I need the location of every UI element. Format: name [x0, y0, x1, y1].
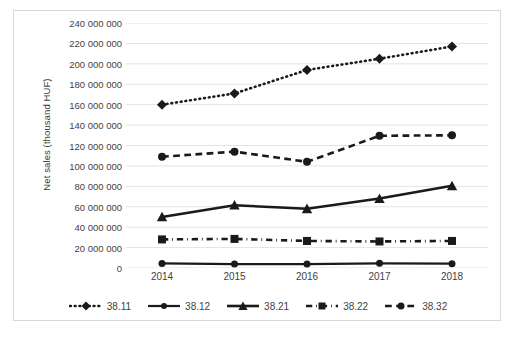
- y-axis-tick-label: 200 000 000: [22, 58, 122, 69]
- legend-swatch-square-icon: [305, 299, 339, 313]
- data-point-marker: [231, 261, 238, 268]
- y-axis-tick-label: 80 000 000: [22, 181, 122, 192]
- y-axis-tick-label: 60 000 000: [22, 201, 122, 212]
- data-point-marker: [376, 237, 384, 245]
- legend-label: 38.12: [185, 301, 210, 312]
- x-axis-tick-labels: 20142015201620172018: [126, 271, 488, 289]
- data-point-marker: [229, 88, 239, 98]
- x-axis-tick-label: 2018: [422, 271, 482, 282]
- data-point-marker: [304, 261, 311, 268]
- series-38-11: [157, 41, 457, 109]
- y-axis-tick-label: 220 000 000: [22, 38, 122, 49]
- y-axis-tick-label: 140 000 000: [22, 120, 122, 131]
- legend-swatch-diamond-icon: [69, 299, 103, 313]
- legend-swatch-triangle-icon: [226, 299, 260, 313]
- data-point-marker: [448, 237, 456, 245]
- y-axis-tick-label: 240 000 000: [22, 18, 122, 29]
- data-point-marker: [161, 303, 167, 309]
- y-axis-tick-labels: 240 000 000220 000 000200 000 000180 000…: [16, 23, 122, 268]
- data-point-marker: [231, 148, 239, 156]
- chart-plot-svg: [126, 23, 488, 268]
- y-axis-tick-label: 0: [22, 263, 122, 274]
- data-point-marker: [157, 100, 167, 110]
- series-38-32: [158, 131, 456, 166]
- data-point-marker: [376, 132, 384, 140]
- data-point-marker: [376, 260, 383, 267]
- legend-item-38-11[interactable]: 38.11: [69, 299, 131, 313]
- legend-item-38-21[interactable]: 38.21: [226, 299, 289, 313]
- data-point-marker: [303, 237, 311, 245]
- x-axis-tick-label: 2014: [132, 271, 192, 282]
- y-axis-tick-label: 120 000 000: [22, 140, 122, 151]
- y-axis-tick-label: 40 000 000: [22, 222, 122, 233]
- legend-item-38-22[interactable]: 38.22: [305, 299, 368, 313]
- legend-item-38-32[interactable]: 38.32: [384, 299, 447, 313]
- series-38-12: [159, 260, 456, 268]
- legend-swatch-circle-icon: [384, 299, 418, 313]
- data-point-marker: [231, 235, 239, 243]
- data-point-marker: [159, 260, 166, 267]
- legend-label: 38.11: [107, 301, 131, 312]
- data-point-marker: [81, 302, 90, 311]
- series-38-22: [158, 235, 456, 246]
- y-axis-tick-label: 20 000 000: [22, 242, 122, 253]
- y-axis-tick-label: 100 000 000: [22, 160, 122, 171]
- chart-legend: 38.1138.1238.2138.2238.32: [14, 294, 502, 318]
- legend-label: 38.22: [343, 301, 368, 312]
- series-line: [162, 46, 452, 104]
- plot-area: [126, 23, 488, 268]
- y-axis-tick-label: 160 000 000: [22, 99, 122, 110]
- legend-label: 38.21: [264, 301, 289, 312]
- data-point-marker: [449, 260, 456, 267]
- data-point-marker: [303, 158, 311, 166]
- x-axis-tick-label: 2015: [205, 271, 265, 282]
- data-point-marker: [448, 131, 456, 139]
- data-point-marker: [374, 54, 384, 64]
- x-axis-tick-label: 2017: [350, 271, 410, 282]
- data-point-marker: [302, 65, 312, 75]
- data-point-marker: [398, 303, 405, 310]
- data-point-marker: [319, 303, 326, 310]
- chart-frame: Net sales (thousand HUF) 240 000 000220 …: [13, 10, 501, 321]
- legend-item-38-12[interactable]: 38.12: [147, 299, 210, 313]
- data-point-marker: [158, 153, 166, 161]
- data-point-marker: [158, 235, 166, 243]
- legend-swatch-circle-icon: [147, 299, 181, 313]
- legend-label: 38.32: [422, 301, 447, 312]
- y-axis-tick-label: 180 000 000: [22, 79, 122, 90]
- x-axis-tick-label: 2016: [277, 271, 337, 282]
